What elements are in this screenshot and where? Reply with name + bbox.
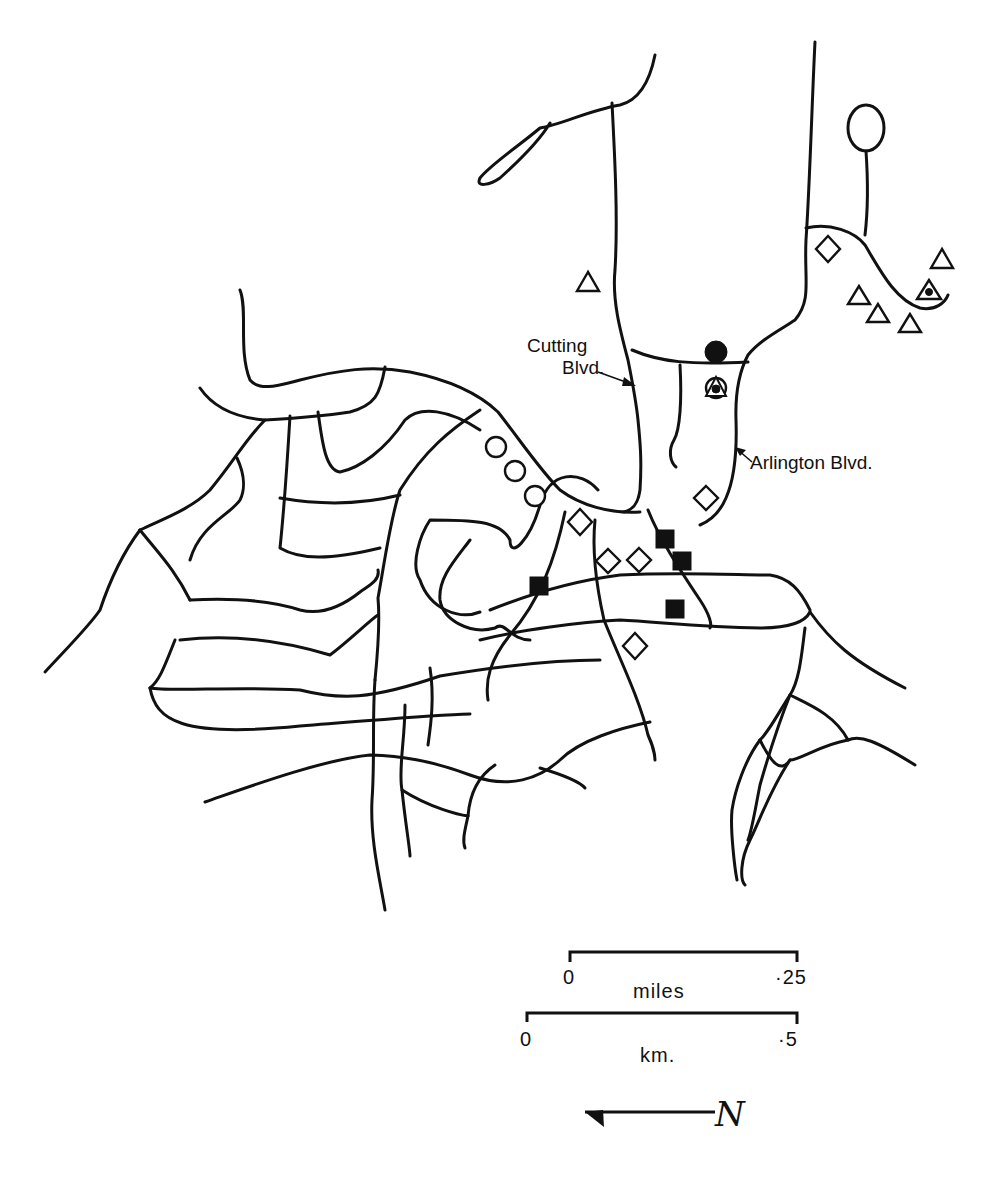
filled-square-icon [673,552,691,570]
open-diamond-icon [568,509,592,535]
open-diamond-icon [694,486,718,510]
open-triangle-icon [848,286,870,304]
open-circle-icon [525,486,545,506]
scale-miles-end: ·25 [775,966,807,989]
open-diamond-icon [623,633,647,659]
label-arlington-blvd: Arlington Blvd. [750,452,873,474]
scale-km-end: ·5 [778,1028,798,1051]
roads [45,42,948,910]
open-circle-icon [486,437,506,457]
north-label: N [715,1094,745,1134]
scale-miles-start: 0 [563,966,575,989]
circled-triangle-with-dot-icon [706,377,726,398]
scale-km-start: 0 [520,1028,532,1051]
open-circle-icon [505,461,525,481]
open-diamond-icon [816,236,840,262]
scale-km-unit: km. [640,1044,675,1067]
filled-circle-icon [705,341,727,363]
open-diamond-icon [627,548,651,572]
filled-square-icon [656,530,674,548]
open-triangle-icon [931,249,953,268]
filled-square-icon [666,600,684,618]
street-map [0,0,1000,1185]
open-diamond-icon [596,549,620,573]
label-arrows [598,372,752,462]
north-arrow-icon [585,1110,715,1127]
filled-square-icon [530,577,548,595]
open-triangle-icon [899,314,921,332]
scale-miles-unit: miles [633,980,685,1003]
label-cutting-blvd-line1: Cutting [527,335,587,357]
site-symbols [486,236,953,659]
open-triangle-icon [577,272,599,291]
open-triangle-icon [867,304,889,322]
label-cutting-blvd-line2: Blvd. [562,357,604,379]
